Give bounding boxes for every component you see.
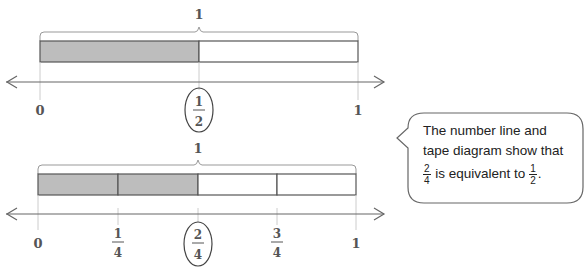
frac-b-num: 1 [529,163,537,175]
bottom-label-three-quarter-num: 3 [273,227,281,241]
callout-fraction-two-quarters: 24 [423,163,431,186]
top-label-0: 0 [35,103,44,118]
bottom-tape-part-2 [118,174,198,195]
bottom-label-half-den: 4 [194,248,202,262]
top-brace [40,27,358,41]
callout-text: The number line and tape diagram show th… [423,121,583,186]
bottom-label-1: 1 [351,236,360,251]
bottom-label-three-quarter-den: 4 [273,246,281,260]
frac-a-num: 2 [423,163,431,175]
top-tape-shaded [40,41,199,62]
top-whole-label: 1 [194,7,203,22]
bottom-tape-part-3 [198,174,277,195]
callout-end-punct: . [538,166,542,181]
bottom-label-quarter-den: 4 [114,246,122,260]
bottom-tape-part-4 [277,174,356,195]
bottom-tape-part-1 [38,174,118,195]
bottom-diagram: 1 0 1 4 2 4 3 4 1 [6,141,384,266]
bottom-label-quarter-num: 1 [114,227,122,241]
bottom-label-half-num: 2 [194,228,202,242]
callout-line-3: 24 is equivalent to 12. [423,163,583,186]
bottom-brace [38,160,356,174]
callout-fraction-one-half: 12 [529,163,537,186]
top-tape-empty [199,41,358,62]
top-label-1: 1 [353,103,362,118]
top-diagram: 1 0 1 2 1 [6,7,384,132]
callout-middle-text: is equivalent to [432,166,530,181]
top-label-half-num: 1 [195,95,203,109]
bottom-whole-label: 1 [193,141,202,156]
bottom-label-0: 0 [33,236,42,251]
callout-line-2: tape diagram show that [423,141,583,161]
top-label-half-den: 2 [195,115,203,129]
callout-line-1: The number line and [423,121,583,141]
frac-a-den: 4 [423,175,431,186]
frac-b-den: 2 [529,175,537,186]
